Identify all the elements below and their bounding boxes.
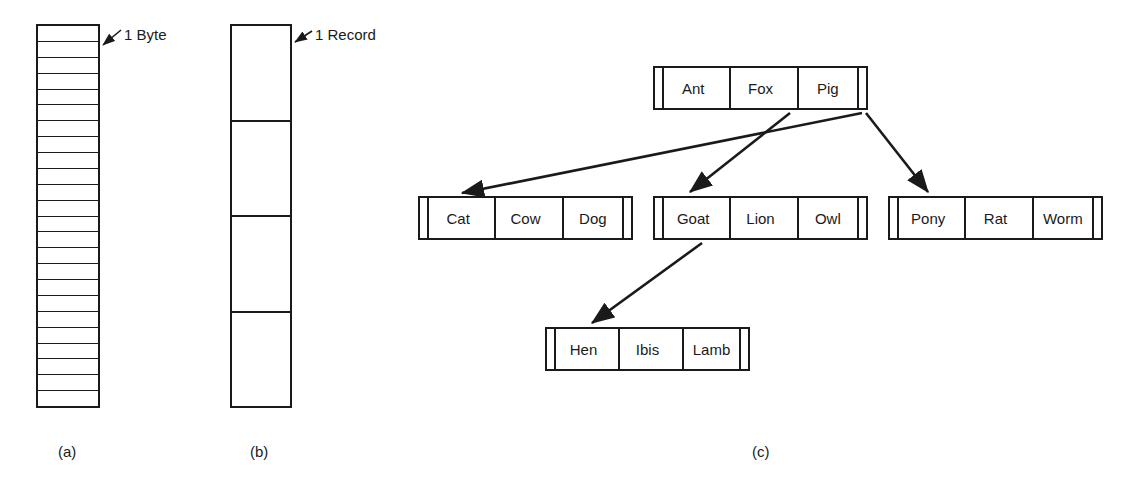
byte-cell <box>38 328 98 344</box>
byte-cell <box>38 153 98 169</box>
byte-cell <box>38 169 98 185</box>
edge-goat-to-hen <box>592 243 702 323</box>
record-cell <box>232 26 290 122</box>
byte-cell <box>38 90 98 106</box>
node-pointer-cell <box>1025 198 1034 238</box>
byte-cell <box>38 105 98 121</box>
arrow-layer <box>0 0 1137 492</box>
node-pointer-cell <box>857 198 866 238</box>
node-pointer-cell <box>722 68 731 108</box>
node-key: Cat <box>429 198 487 238</box>
node-key: Rat <box>966 198 1024 238</box>
node-pointer-cell <box>655 68 664 108</box>
byte-cell <box>38 248 98 264</box>
node-key: Ant <box>664 68 722 108</box>
node-key: Hen <box>556 329 611 369</box>
tree-node-root: Ant Fox Pig <box>653 66 868 110</box>
byte-cell <box>38 232 98 248</box>
tree-node-cat: Cat Cow Dog <box>418 196 633 240</box>
byte-callout-leader <box>103 30 121 45</box>
byte-cell <box>38 391 98 406</box>
tree-node-hen: Hen Ibis Lamb <box>545 327 750 371</box>
record-cell <box>232 313 290 407</box>
edge-root-to-goat <box>690 113 790 192</box>
figure-caption-a: (a) <box>58 444 76 459</box>
edge-root-to-pony <box>866 113 928 192</box>
record-column <box>230 24 292 408</box>
node-pointer-cell <box>555 198 564 238</box>
node-pointer-cell <box>655 198 664 238</box>
node-pointer-cell <box>957 198 966 238</box>
record-callout-label: 1 Record <box>315 27 376 42</box>
byte-cell <box>38 26 98 42</box>
byte-cell <box>38 296 98 312</box>
figure-caption-b: (b) <box>250 444 268 459</box>
node-key: Pig <box>799 68 857 108</box>
byte-cell <box>38 137 98 153</box>
edge-root-to-cat <box>462 113 862 193</box>
node-pointer-cell <box>622 198 631 238</box>
byte-cell <box>38 185 98 201</box>
node-pointer-cell <box>722 198 731 238</box>
node-key: Owl <box>799 198 857 238</box>
node-key: Fox <box>731 68 789 108</box>
byte-cell <box>38 58 98 74</box>
node-pointer-cell <box>1092 198 1101 238</box>
byte-cell <box>38 312 98 328</box>
byte-cell <box>38 375 98 391</box>
record-callout-leader <box>295 31 312 42</box>
byte-cell <box>38 217 98 233</box>
byte-column <box>36 24 100 408</box>
node-key: Goat <box>664 198 722 238</box>
node-pointer-cell <box>547 329 556 369</box>
byte-cell <box>38 74 98 90</box>
node-pointer-cell <box>420 198 429 238</box>
node-pointer-cell <box>857 68 866 108</box>
byte-cell <box>38 121 98 137</box>
record-cell <box>232 217 290 313</box>
byte-cell <box>38 201 98 217</box>
node-key: Worm <box>1034 198 1092 238</box>
node-key: Cow <box>496 198 554 238</box>
node-pointer-cell <box>790 68 799 108</box>
node-pointer-cell <box>790 198 799 238</box>
node-key: Dog <box>564 198 622 238</box>
node-key: Pony <box>899 198 957 238</box>
node-pointer-cell <box>890 198 899 238</box>
byte-cell <box>38 359 98 375</box>
byte-cell <box>38 280 98 296</box>
node-pointer-cell <box>739 329 748 369</box>
tree-node-goat: Goat Lion Owl <box>653 196 868 240</box>
node-pointer-cell <box>675 329 684 369</box>
node-key: Lion <box>731 198 789 238</box>
tree-node-pony: Pony Rat Worm <box>888 196 1103 240</box>
node-pointer-cell <box>611 329 620 369</box>
byte-cell <box>38 344 98 360</box>
node-pointer-cell <box>487 198 496 238</box>
byte-cell <box>38 264 98 280</box>
node-key: Ibis <box>620 329 675 369</box>
figure-caption-c: (c) <box>752 444 770 459</box>
record-cell <box>232 122 290 218</box>
byte-cell <box>38 42 98 58</box>
byte-callout-label: 1 Byte <box>124 27 167 42</box>
node-key: Lamb <box>684 329 739 369</box>
